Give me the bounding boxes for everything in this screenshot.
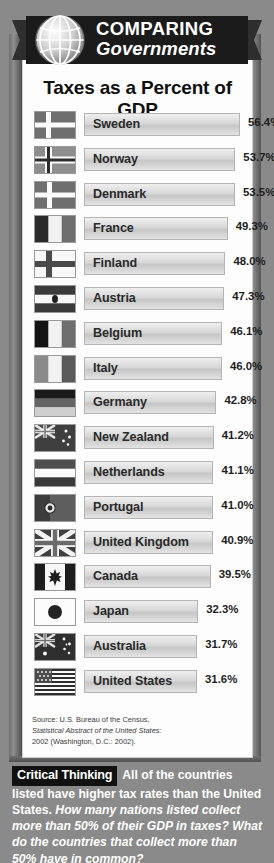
banner-title: COMPARING Governments <box>96 20 246 59</box>
country-label: Australia <box>93 639 146 653</box>
country-label: New Zealand <box>93 430 169 444</box>
chart-row: Sweden56.4% <box>22 108 253 143</box>
chart-row: Italy46.0% <box>22 352 253 387</box>
chart-row: United Kingdom40.9% <box>22 526 253 561</box>
country-label: Canada <box>93 569 138 583</box>
country-label: Germany <box>93 395 147 409</box>
country-label: Austria <box>93 291 136 305</box>
bar: France <box>84 217 228 240</box>
value-label: 53.5% <box>243 186 274 198</box>
source-line-3: 2002 (Washington, D.C.: 2002). <box>32 737 136 746</box>
value-label: 31.6% <box>205 673 237 685</box>
value-label: 32.3% <box>206 603 238 615</box>
chart-row: Denmark53.5% <box>22 178 253 213</box>
chart-row: New Zealand41.2% <box>22 421 253 456</box>
bar: Sweden <box>84 113 240 136</box>
flag-denmark-icon <box>35 182 75 208</box>
value-label: 48.0% <box>233 255 265 267</box>
value-label: 49.3% <box>236 220 268 232</box>
critical-thinking-badge: Critical Thinking <box>12 766 117 786</box>
flag-japan-icon <box>35 599 75 625</box>
flag-austria-icon <box>35 286 75 312</box>
flag-norway-icon <box>35 147 75 173</box>
chart-row: Belgium46.1% <box>22 317 253 352</box>
value-label: 39.5% <box>219 568 251 580</box>
bar: Austria <box>84 287 224 310</box>
bar: Belgium <box>84 322 222 345</box>
value-label: 53.7% <box>243 151 274 163</box>
country-label: United States <box>93 674 172 688</box>
country-label: Norway <box>93 152 138 166</box>
chart-row: France49.3% <box>22 212 253 247</box>
bar: Canada <box>84 565 211 588</box>
value-label: 41.1% <box>221 464 253 476</box>
bar: Japan <box>84 600 198 623</box>
frame-left-edge <box>9 34 22 760</box>
globe-icon <box>34 14 86 66</box>
country-label: Netherlands <box>93 465 165 479</box>
flag-italy-icon <box>35 356 75 382</box>
flag-australia-icon <box>35 634 75 660</box>
value-label: 46.1% <box>230 325 262 337</box>
country-label: Portugal <box>93 500 143 514</box>
bar: New Zealand <box>84 426 214 449</box>
bar: Germany <box>84 391 216 414</box>
chart-row: Finland48.0% <box>22 247 253 282</box>
flag-united-kingdom-icon <box>35 530 75 556</box>
flag-canada-icon <box>35 564 75 590</box>
chart-row: Portugal41.0% <box>22 491 253 526</box>
source-line-2: Statistical Abstract of the United State… <box>32 726 162 735</box>
flag-united-states-icon <box>35 669 75 695</box>
bar: United Kingdom <box>84 531 213 554</box>
chart-row: Japan32.3% <box>22 595 253 630</box>
source-line-1: Source: U.S. Bureau of the Census, <box>32 715 150 724</box>
flag-finland-icon <box>35 251 75 277</box>
country-label: France <box>93 221 134 235</box>
value-label: 41.2% <box>222 429 254 441</box>
chart-row: Norway53.7% <box>22 143 253 178</box>
banner: COMPARING Governments <box>12 12 262 68</box>
country-label: United Kingdom <box>93 535 189 549</box>
flag-belgium-icon <box>35 321 75 347</box>
bar: Norway <box>84 148 235 171</box>
infographic-poster: COMPARING Governments Taxes as a Percent… <box>0 0 274 863</box>
bar: Australia <box>84 635 197 658</box>
flag-france-icon <box>35 216 75 242</box>
bar: United States <box>84 670 197 693</box>
chart-row: Canada39.5% <box>22 560 253 595</box>
chart-row: United States31.6% <box>22 665 253 700</box>
value-label: 42.8% <box>224 394 256 406</box>
flag-sweden-icon <box>35 112 75 138</box>
chart-row: Germany42.8% <box>22 386 253 421</box>
country-label: Japan <box>93 604 129 618</box>
value-label: 46.0% <box>230 360 262 372</box>
bar: Finland <box>84 252 225 275</box>
value-label: 41.0% <box>221 499 253 511</box>
critical-thinking-block: Critical ThinkingAll of the countries li… <box>12 766 264 863</box>
bar: Portugal <box>84 496 213 519</box>
chart-row: Austria47.3% <box>22 282 253 317</box>
banner-line-1: COMPARING <box>96 20 246 39</box>
bar: Denmark <box>84 183 235 206</box>
value-label: 31.7% <box>205 638 237 650</box>
country-label: Belgium <box>93 326 142 340</box>
value-label: 47.3% <box>232 290 264 302</box>
banner-line-2: Governments <box>96 40 246 59</box>
country-label: Denmark <box>93 187 146 201</box>
chart-rows: Sweden56.4%Norway53.7%Denmark53.5%France… <box>22 108 253 700</box>
bar: Netherlands <box>84 461 213 484</box>
flag-portugal-icon <box>35 495 75 521</box>
country-label: Finland <box>93 256 137 270</box>
country-label: Italy <box>93 361 118 375</box>
value-label: 40.9% <box>221 534 253 546</box>
flag-new-zealand-icon <box>35 425 75 451</box>
country-label: Sweden <box>93 117 140 131</box>
value-label: 56.4% <box>248 116 274 128</box>
flag-netherlands-icon <box>35 460 75 486</box>
source-citation: Source: U.S. Bureau of the Census, Stati… <box>32 714 232 747</box>
flag-germany-icon <box>35 390 75 416</box>
chart-row: Australia31.7% <box>22 630 253 665</box>
chart-row: Netherlands41.1% <box>22 456 253 491</box>
bar: Italy <box>84 357 222 380</box>
